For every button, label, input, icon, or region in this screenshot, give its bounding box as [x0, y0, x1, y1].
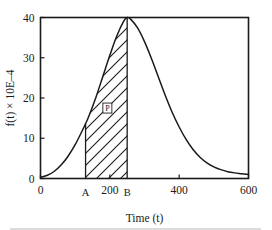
figure-container: 010203040 0200400600 P A B Time (t) f(t)…	[0, 0, 271, 230]
y-tick-label: 0	[29, 173, 35, 185]
hatch-line	[0, 0, 191, 219]
y-tick-label: 30	[23, 52, 35, 64]
x-axis-title: Time (t)	[126, 212, 164, 225]
x-tick-label: 600	[240, 184, 258, 196]
axis-mark-a: A	[82, 187, 90, 198]
y-tick-label: 10	[23, 132, 35, 144]
x-tick-label: 0	[38, 184, 44, 196]
y-tick-label: 40	[23, 12, 35, 24]
hatch-line	[0, 0, 143, 219]
axis-mark-b: B	[124, 187, 131, 198]
hatch-line	[201, 0, 272, 219]
x-axis-tick-labels: 0200400600	[38, 184, 258, 196]
hatch-line	[33, 0, 263, 219]
hatch-line	[261, 0, 272, 219]
hatch-line	[0, 0, 155, 219]
x-tick-label: 200	[101, 184, 119, 196]
x-tick-label: 400	[171, 184, 189, 196]
probability-density-chart: 010203040 0200400600 P A B Time (t) f(t)…	[0, 0, 271, 230]
hatch-line	[189, 0, 272, 219]
hatch-line	[45, 0, 272, 219]
y-axis-title: f(t) × 10E–4	[4, 69, 17, 126]
hatch-line	[21, 0, 251, 219]
y-axis-tick-labels: 010203040	[23, 12, 35, 185]
y-tick-label: 20	[23, 92, 35, 104]
region-label: P	[105, 104, 110, 113]
density-curve	[41, 17, 249, 177]
